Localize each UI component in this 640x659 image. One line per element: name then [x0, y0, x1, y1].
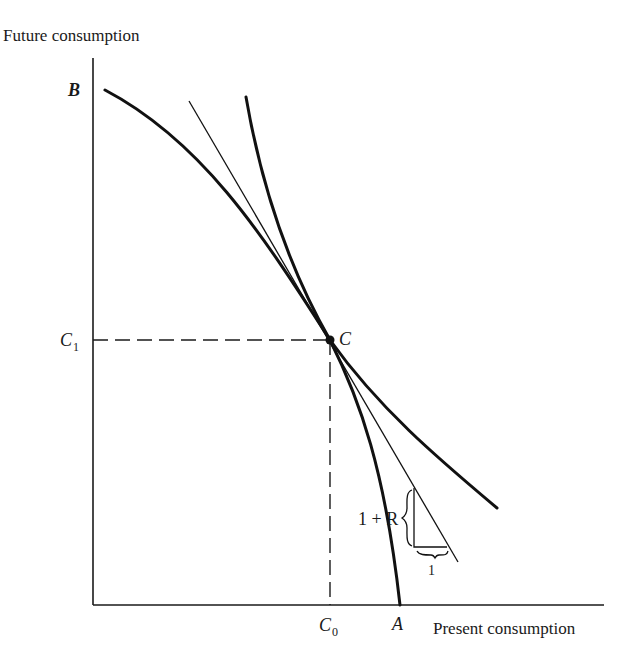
run-label: 1 [428, 563, 435, 578]
run-brace-icon [417, 551, 448, 558]
market-line [189, 101, 458, 562]
label-c0: C 0 [319, 615, 338, 639]
rise-label: 1 + R [358, 509, 398, 529]
intertemporal-choice-diagram: Future consumption Present consumption B… [0, 0, 640, 659]
svg-text:0: 0 [332, 625, 338, 639]
svg-text:1: 1 [73, 340, 79, 354]
slope-triangle [414, 488, 447, 547]
rise-brace-icon [402, 490, 412, 546]
label-c: C [339, 329, 352, 349]
label-c1: C 1 [60, 330, 79, 354]
label-b: B [67, 80, 80, 100]
label-a: A [391, 614, 404, 634]
y-axis-label: Future consumption [3, 26, 140, 45]
tangency-point-marker [326, 336, 335, 345]
svg-text:C: C [319, 615, 332, 635]
x-axis-label: Present consumption [433, 619, 576, 638]
svg-text:C: C [60, 330, 73, 350]
indifference-curve [105, 90, 497, 508]
